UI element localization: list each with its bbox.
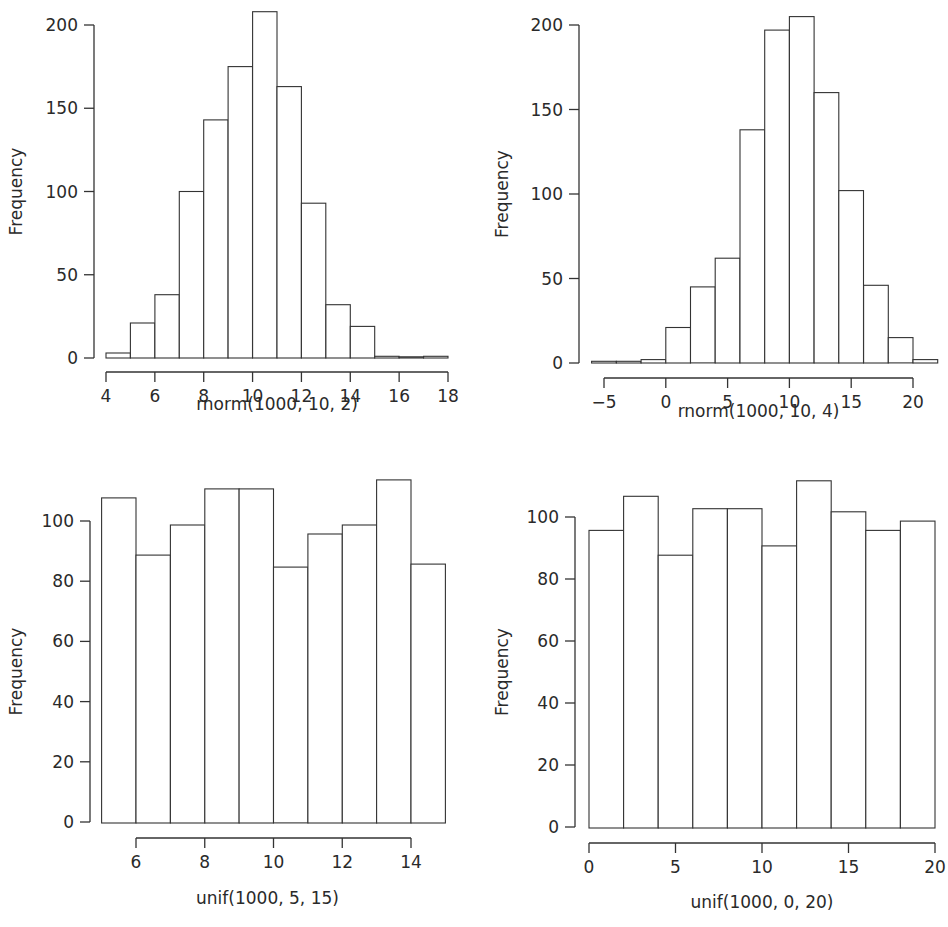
histogram-bar (814, 93, 839, 363)
y-axis-title: Frequency (6, 148, 26, 236)
x-tick-label: 15 (838, 857, 860, 877)
x-tick-label: 15 (840, 392, 862, 412)
histogram-bar (866, 530, 901, 828)
histogram-bar (411, 564, 445, 823)
x-tick-label: 12 (331, 852, 353, 872)
histogram-panel-1: 0501001502004681012141618rnorm(1000, 10,… (6, 12, 459, 414)
histogram-bar (377, 480, 411, 823)
histogram-bar (762, 546, 797, 828)
histogram-bar (589, 530, 624, 828)
y-tick-label: 60 (537, 631, 559, 651)
x-tick-label: 6 (131, 852, 142, 872)
x-tick-label: 16 (388, 386, 410, 406)
histogram-bar (106, 353, 130, 358)
histogram-bar (277, 87, 301, 358)
histogram-bar (155, 295, 179, 358)
histogram-bar (136, 555, 170, 823)
y-tick-label: 0 (63, 812, 74, 832)
histogram-bar (797, 481, 832, 828)
histogram-bars (102, 480, 446, 823)
histogram-bar (765, 30, 790, 363)
histogram-bar (399, 357, 423, 358)
y-axis: 020406080100 (527, 507, 575, 837)
histogram-bar (130, 323, 154, 358)
histogram-bar (424, 356, 448, 358)
y-tick-label: 20 (537, 755, 559, 775)
histogram-panel-2: 050100150200−505101520rnorm(1000, 10, 4)… (492, 15, 938, 421)
x-tick-label: 20 (902, 392, 924, 412)
histogram-bar (888, 338, 913, 363)
histogram-bar (170, 525, 204, 823)
y-tick-label: 60 (52, 631, 74, 651)
histogram-bar (913, 360, 938, 363)
histogram-bar (616, 361, 641, 363)
y-tick-label: 0 (548, 817, 559, 837)
y-tick-label: 200 (46, 15, 78, 35)
y-tick-label: 100 (46, 182, 78, 202)
histogram-bar (239, 489, 273, 823)
y-axis-title: Frequency (492, 150, 512, 238)
x-tick-label: 0 (584, 857, 595, 877)
histogram-bar (641, 360, 666, 363)
y-tick-label: 50 (541, 269, 563, 289)
histogram-bar (274, 567, 308, 823)
y-tick-label: 200 (531, 15, 563, 35)
x-axis-title: unif(1000, 5, 15) (196, 888, 339, 908)
y-tick-label: 40 (52, 692, 74, 712)
histogram-bar (666, 328, 691, 364)
y-axis: 050100150200 (46, 15, 94, 368)
y-tick-label: 150 (531, 100, 563, 120)
histogram-bar (715, 258, 740, 363)
x-tick-label: 10 (263, 852, 285, 872)
histogram-bar (228, 67, 252, 358)
histogram-panel-4: 02040608010005101520unif(1000, 0, 20)Fre… (492, 481, 946, 912)
histogram-bar (253, 12, 277, 358)
y-tick-label: 80 (52, 571, 74, 591)
y-tick-label: 150 (46, 98, 78, 118)
x-tick-label: 6 (149, 386, 160, 406)
x-axis-title: rnorm(1000, 10, 2) (196, 394, 358, 414)
histogram-bar (789, 17, 814, 363)
histogram-bar (342, 525, 376, 823)
y-axis-title: Frequency (492, 628, 512, 716)
y-tick-label: 50 (56, 265, 78, 285)
x-tick-label: 4 (101, 386, 112, 406)
histogram-bar (375, 356, 399, 358)
histogram-bar (624, 496, 659, 828)
histogram-bar (864, 285, 889, 363)
x-tick-label: 20 (924, 857, 946, 877)
y-tick-label: 100 (527, 507, 559, 527)
y-tick-label: 100 (531, 184, 563, 204)
histogram-bar (205, 489, 239, 823)
x-tick-label: 8 (199, 852, 210, 872)
x-tick-label: 0 (660, 392, 671, 412)
histogram-bar (592, 361, 617, 363)
y-tick-label: 100 (42, 511, 74, 531)
histogram-bar (179, 192, 203, 359)
histogram-bar (102, 498, 136, 823)
histogram-bar (691, 287, 716, 363)
y-tick-label: 0 (552, 353, 563, 373)
y-tick-label: 20 (52, 752, 74, 772)
histogram-figure: 0501001502004681012141618rnorm(1000, 10,… (0, 0, 948, 927)
histogram-bar (831, 512, 866, 828)
histogram-bar (740, 130, 765, 363)
histogram-bar (839, 191, 864, 363)
y-axis: 050100150200 (531, 15, 579, 373)
histogram-bar (900, 521, 935, 828)
histogram-panel-3: 02040608010068101214unif(1000, 5, 15)Fre… (6, 480, 445, 908)
y-axis: 020406080100 (42, 511, 90, 832)
histogram-bar (350, 326, 374, 358)
y-tick-label: 80 (537, 569, 559, 589)
x-tick-label: 18 (437, 386, 459, 406)
y-axis-title: Frequency (6, 628, 26, 716)
histogram-bar (693, 509, 728, 828)
histogram-bar (727, 509, 762, 828)
histogram-bars (106, 12, 448, 358)
x-axis: 68101214 (131, 838, 422, 872)
histogram-bar (658, 555, 693, 828)
histogram-bars (589, 481, 935, 828)
x-tick-label: 5 (670, 857, 681, 877)
y-tick-label: 0 (67, 348, 78, 368)
histogram-bars (592, 17, 938, 363)
